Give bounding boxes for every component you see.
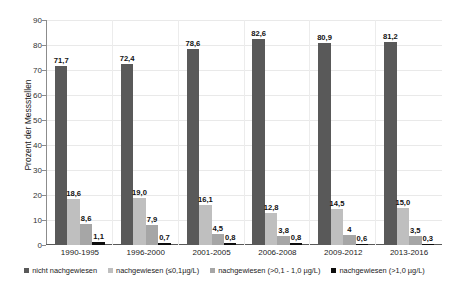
legend-item[interactable]: nachgewiesen (≤0,1µg/L)	[108, 266, 199, 275]
bar-value-label: 3,8	[278, 226, 289, 235]
y-tick-mark	[42, 170, 46, 171]
bar-value-label: 15,0	[395, 198, 410, 207]
bar[interactable]: 15,0	[397, 208, 409, 246]
bar[interactable]: 3,8	[277, 236, 289, 246]
y-tick-mark	[42, 120, 46, 121]
bar-value-label: 3,5	[410, 226, 421, 235]
bar[interactable]: 0,6	[356, 244, 368, 246]
bar-group-bars: 81,215,03,50,3	[376, 20, 442, 245]
bar[interactable]: 78,6	[187, 49, 199, 246]
bar-value-label: 78,6	[185, 39, 200, 48]
x-category-label: 2001-2005	[179, 248, 245, 257]
bar-value-label: 12,8	[264, 203, 279, 212]
legend-swatch-icon	[108, 268, 113, 273]
y-tick-label: 90	[33, 16, 42, 25]
chart-legend: nicht nachgewiesennachgewiesen (≤0,1µg/L…	[0, 266, 449, 275]
bar[interactable]: 19,0	[133, 198, 145, 246]
bar[interactable]: 72,4	[121, 64, 133, 245]
bar[interactable]: 0,8	[224, 243, 236, 245]
bar-value-label: 19,0	[132, 188, 147, 197]
legend-swatch-icon	[331, 268, 336, 273]
y-tick-label: 70	[33, 66, 42, 75]
legend-label: nachgewiesen (>1,0 µg/L)	[339, 266, 424, 275]
bar-group: 71,718,68,61,1	[47, 20, 113, 245]
bar[interactable]: 18,6	[67, 199, 79, 246]
bar[interactable]: 8,6	[80, 224, 92, 246]
bar[interactable]: 12,8	[265, 213, 277, 245]
bar-value-label: 4	[347, 225, 351, 234]
bar-value-label: 1,1	[93, 232, 104, 241]
bar-value-label: 0,8	[225, 233, 236, 242]
y-axis-title: Prozent der Messstellen	[23, 50, 33, 200]
bar[interactable]: 16,1	[199, 205, 211, 245]
y-tick-mark	[42, 195, 46, 196]
bar-value-label: 72,4	[120, 54, 135, 63]
bar-value-label: 0,6	[357, 234, 368, 243]
bar[interactable]: 80,9	[318, 43, 330, 245]
bar-value-label: 18,6	[66, 189, 81, 198]
bar-value-label: 7,9	[147, 215, 158, 224]
bar[interactable]: 82,6	[252, 39, 264, 246]
bar[interactable]: 3,5	[409, 236, 421, 245]
bar-group-bars: 80,914,540,6	[310, 20, 376, 245]
legend-label: nachgewiesen (≤0,1µg/L)	[116, 266, 199, 275]
bar-value-label: 0,8	[291, 233, 302, 242]
bar[interactable]: 0,7	[158, 243, 170, 245]
bar[interactable]: 81,2	[384, 42, 396, 245]
y-tick-label: 10	[33, 216, 42, 225]
legend-swatch-icon	[210, 268, 215, 273]
x-category-label: 1996-2000	[113, 248, 179, 257]
legend-swatch-icon	[24, 268, 29, 273]
bar-value-label: 14,5	[330, 199, 345, 208]
y-tick-label: 30	[33, 166, 42, 175]
bar-group: 81,215,03,50,3	[376, 20, 442, 245]
y-tick-mark	[42, 95, 46, 96]
bar-group: 72,419,07,90,7	[113, 20, 179, 245]
y-tick-label: 80	[33, 41, 42, 50]
x-category-label: 2009-2012	[310, 248, 376, 257]
bar[interactable]: 4,5	[212, 234, 224, 245]
bar-group-bars: 72,419,07,90,7	[113, 20, 179, 245]
bar[interactable]: 4	[343, 235, 355, 245]
bar-group: 80,914,540,6	[310, 20, 376, 245]
y-tick-mark	[42, 245, 46, 246]
plot-area: 9080706050403020100 71,718,68,61,172,419…	[46, 20, 442, 245]
bar-groups: 71,718,68,61,172,419,07,90,778,616,14,50…	[47, 20, 442, 245]
y-tick-mark	[42, 145, 46, 146]
legend-item[interactable]: nicht nachgewiesen	[24, 266, 97, 275]
x-axis-labels: 1990-19951996-20002001-20052006-20082009…	[47, 248, 442, 257]
y-tick-label: 50	[33, 116, 42, 125]
x-category-label: 2013-2016	[376, 248, 442, 257]
bar-value-label: 71,7	[54, 56, 69, 65]
y-tick-label: 40	[33, 141, 42, 150]
x-category-label: 2006-2008	[244, 248, 310, 257]
legend-label: nicht nachgewiesen	[32, 266, 97, 275]
legend-item[interactable]: nachgewiesen (>1,0 µg/L)	[331, 266, 424, 275]
bar-group-bars: 82,612,83,80,8	[244, 20, 310, 245]
y-tick-label: 60	[33, 91, 42, 100]
bar[interactable]: 71,7	[55, 66, 67, 245]
bar[interactable]: 1,1	[92, 242, 104, 245]
y-tick-label: 20	[33, 191, 42, 200]
bar-value-label: 4,5	[213, 224, 224, 233]
bar-value-label: 81,2	[383, 32, 398, 41]
bar-value-label: 8,6	[81, 214, 92, 223]
legend-item[interactable]: nachgewiesen (>0,1 - 1,0 µg/L)	[210, 266, 320, 275]
y-tick-mark	[42, 45, 46, 46]
bar-value-label: 80,9	[317, 33, 332, 42]
bar-group-bars: 71,718,68,61,1	[47, 20, 113, 245]
bar-group: 82,612,83,80,8	[244, 20, 310, 245]
y-tick-mark	[42, 20, 46, 21]
bar[interactable]: 0,8	[290, 243, 302, 245]
bar[interactable]: 0,3	[422, 244, 434, 245]
bar[interactable]: 14,5	[331, 209, 343, 245]
bar-value-label: 82,6	[251, 29, 266, 38]
bar-chart: Prozent der Messstellen 9080706050403020…	[0, 0, 449, 289]
bar-value-label: 16,1	[198, 195, 213, 204]
x-category-label: 1990-1995	[47, 248, 113, 257]
bar-group: 78,616,14,50,8	[179, 20, 245, 245]
bar-value-label: 0,7	[159, 233, 170, 242]
bar-value-label: 0,3	[422, 234, 433, 243]
legend-label: nachgewiesen (>0,1 - 1,0 µg/L)	[218, 266, 320, 275]
bar[interactable]: 7,9	[146, 225, 158, 245]
